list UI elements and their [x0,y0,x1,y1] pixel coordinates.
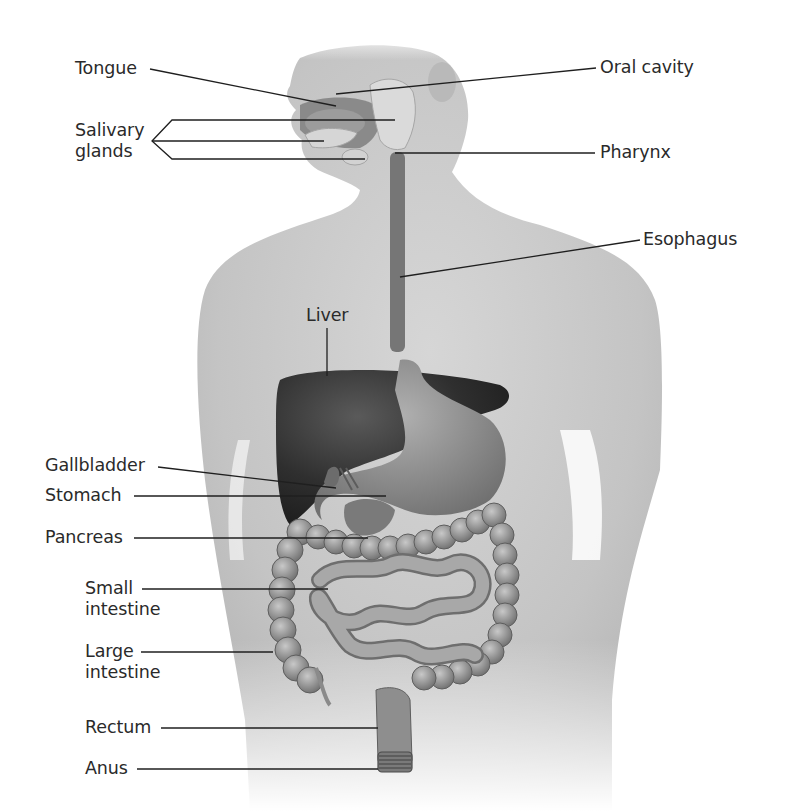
digestive-system-diagram: Tongue Oral cavity Salivary glands Phary… [0,0,788,811]
label-anus: Anus [85,758,128,779]
label-tongue: Tongue [75,58,137,79]
label-pharynx: Pharynx [600,142,671,163]
label-small-intestine-line1: Small [85,578,160,599]
label-large-intestine-line1: Large [85,641,160,662]
label-salivary-glands-line2: glands [75,141,144,162]
label-large-intestine-line2: intestine [85,662,160,683]
label-pancreas: Pancreas [45,527,123,548]
label-esophagus: Esophagus [643,229,737,250]
anus-ring [378,752,412,772]
label-small-intestine: Small intestine [85,578,160,620]
label-salivary-glands-line1: Salivary [75,120,144,141]
label-gallbladder: Gallbladder [45,455,145,476]
label-rectum: Rectum [85,717,151,738]
label-oral-cavity: Oral cavity [600,57,694,78]
label-stomach: Stomach [45,485,121,506]
label-large-intestine: Large intestine [85,641,160,683]
label-small-intestine-line2: intestine [85,599,160,620]
label-liver: Liver [306,305,348,326]
label-salivary-glands: Salivary glands [75,120,144,162]
esophagus-tube [390,152,405,352]
